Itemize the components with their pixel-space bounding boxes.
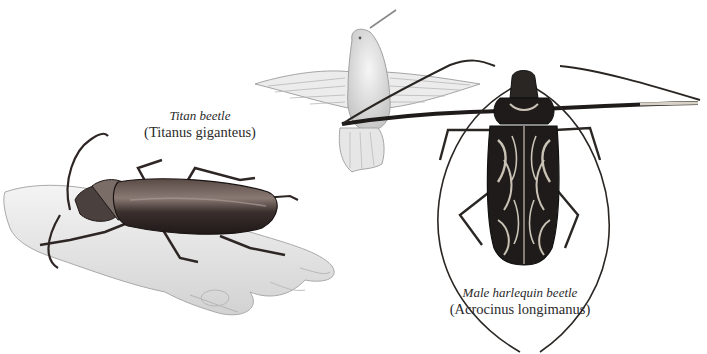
harlequin-beetle-scientific-name: (Acrocinus longimanus) — [420, 301, 620, 318]
hummingbird-illustration — [255, 10, 480, 172]
titan-beetle-caption: Titan beetle (Titanus giganteus) — [100, 108, 300, 141]
harlequin-beetle-common-name: Male harlequin beetle — [420, 285, 620, 301]
harlequin-beetle-caption: Male harlequin beetle (Acrocinus longima… — [420, 285, 620, 318]
illustration-plate: Titan beetle (Titanus giganteus) Male ha… — [0, 0, 707, 354]
titan-beetle-common-name: Titan beetle — [100, 108, 300, 124]
titan-beetle-scientific-name: (Titanus giganteus) — [100, 124, 300, 141]
